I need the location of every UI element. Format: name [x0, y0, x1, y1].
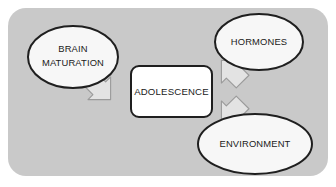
adolescence-influences-diagram: BRAIN MATURATION HORMONES ENVIRONMENT AD…: [0, 0, 336, 187]
diagram-root: BRAIN MATURATION HORMONES ENVIRONMENT AD…: [0, 0, 336, 187]
node-label-brain-maturation-line1: BRAIN: [58, 43, 87, 54]
node-environment[interactable]: ENVIRONMENT: [198, 114, 312, 174]
node-label-brain-maturation-line2: MATURATION: [42, 57, 104, 68]
node-hormones[interactable]: HORMONES: [215, 14, 303, 70]
node-label-hormones: HORMONES: [231, 36, 287, 47]
node-brain-maturation[interactable]: BRAIN MATURATION: [28, 26, 118, 88]
node-adolescence[interactable]: ADOLESCENCE: [131, 66, 212, 117]
node-label-environment: ENVIRONMENT: [220, 138, 291, 149]
node-label-adolescence: ADOLESCENCE: [134, 86, 209, 97]
